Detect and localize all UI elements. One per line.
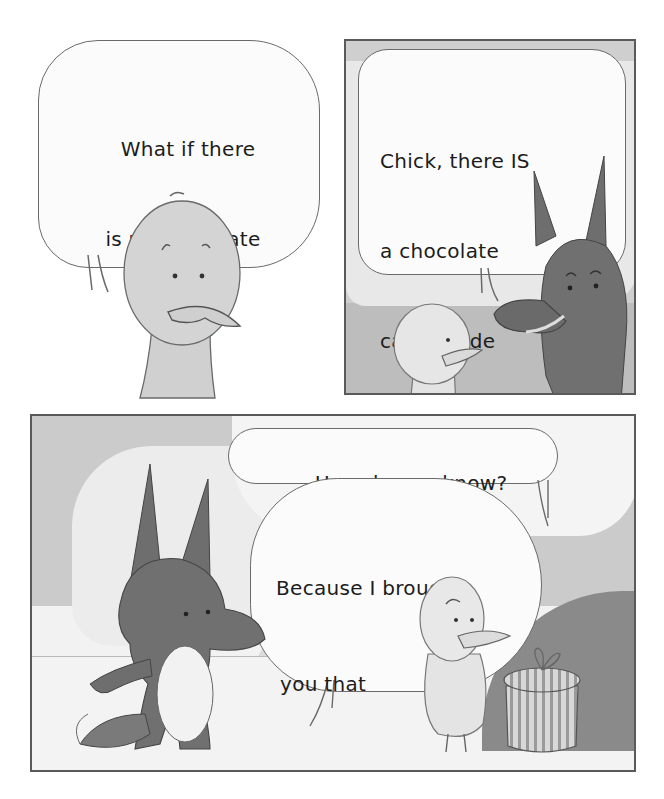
panel-1: What if there is no chocolate cake? <box>0 0 330 400</box>
chick-character <box>110 188 250 398</box>
gift-box <box>502 646 582 758</box>
fox-character <box>60 444 270 754</box>
panel-2: Chick, there IS a chocolate cake inside … <box>344 39 636 395</box>
speech-line: What if there <box>88 134 288 164</box>
fox-character <box>486 136 636 395</box>
panel-3: How do you know? Because I brought you t… <box>30 414 636 772</box>
chick-character <box>386 296 486 395</box>
speech-bubble-tail <box>532 478 562 538</box>
speech-line: box. <box>306 764 463 772</box>
